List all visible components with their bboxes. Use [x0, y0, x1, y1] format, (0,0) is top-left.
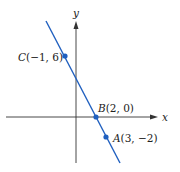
point-c	[62, 53, 67, 58]
y-axis-label: y	[72, 7, 80, 19]
point-b	[93, 114, 98, 119]
point-a	[103, 134, 108, 139]
point-b-label: B(2, 0)	[97, 102, 134, 114]
point-a-label: A(3, −2)	[112, 132, 158, 144]
x-axis-arrow-icon	[150, 115, 158, 120]
x-axis-label: x	[162, 111, 168, 123]
point-c-label: C(−1, 6)	[18, 51, 63, 63]
y-axis-arrow-icon	[74, 21, 79, 29]
line-through-points	[46, 21, 120, 163]
coordinate-diagram: x y C(−1, 6) B(2, 0) A(3, −2)	[0, 0, 180, 172]
